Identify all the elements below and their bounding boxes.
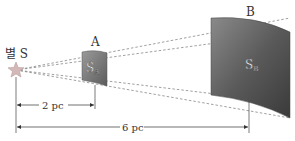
star-label: 별 S	[5, 47, 28, 61]
surface-b: SB	[211, 18, 290, 118]
star-icon	[8, 62, 24, 77]
dimension-6pc-label: 6 pc	[122, 122, 144, 133]
dimension-2pc-label: 2 pc	[42, 100, 64, 111]
label-b: B	[246, 5, 255, 19]
star-surface-diagram: SA SB A B 별 S 2 pc 6 pc	[0, 0, 295, 141]
dimension-2pc: 2 pc	[17, 100, 94, 111]
dimension-6pc: 6 pc	[17, 122, 248, 133]
label-a: A	[90, 35, 100, 49]
surface-a: SA	[82, 51, 107, 86]
star-s: 별 S	[5, 47, 28, 77]
